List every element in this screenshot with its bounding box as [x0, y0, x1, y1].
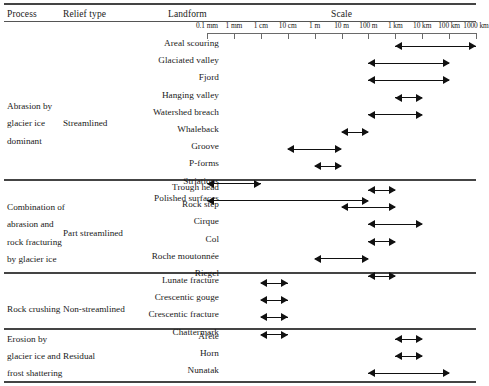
scale-tick-label: 100 km: [438, 21, 460, 30]
scale-tick-label: 1 km: [388, 21, 403, 30]
scale-range-arrow: [368, 59, 449, 68]
arrow-head-right-icon: [416, 220, 423, 228]
process-label-line: rock fracturing: [7, 234, 65, 251]
arrow-head-right-icon: [443, 369, 450, 377]
arrow-head-right-icon: [389, 238, 396, 246]
arrow-head-right-icon: [469, 42, 476, 50]
table-row: Fjord: [0, 72, 480, 89]
arrow-head-right-icon: [281, 279, 288, 287]
scale-range-arrow: [288, 145, 342, 154]
table-row: Hanging valley: [0, 90, 480, 107]
table-row: Arête: [0, 331, 480, 348]
process-label: Rock crushing: [7, 301, 60, 318]
landform-label: Areal scouring: [164, 38, 219, 48]
scale-tick-label: 0.1 mm: [196, 21, 218, 30]
table-row: Rock step: [0, 199, 480, 216]
relief-type-label: Streamlined: [63, 115, 107, 132]
process-label: Erosion byglacier ice andfrost shatterin…: [7, 331, 62, 383]
process-label-line: Abrasion by: [7, 98, 52, 115]
table-row: P-forms: [0, 158, 480, 175]
landform-label: Col: [206, 234, 219, 244]
arrow-head-right-icon: [362, 255, 369, 263]
scale-range-arrow: [368, 237, 395, 246]
scale-range-arrow: [261, 279, 288, 288]
scale-range-arrow: [315, 254, 369, 263]
table-top-rule: [4, 3, 476, 5]
arrow-head-right-icon: [416, 94, 423, 102]
process-label-line: glacier ice: [7, 115, 52, 132]
process-label: Combination ofabrasion androck fracturin…: [7, 199, 65, 268]
landform-label: P-forms: [189, 158, 219, 168]
landform-label: Crescentic fracture: [148, 309, 219, 319]
process-label-line: glacier ice and: [7, 348, 62, 365]
scale-tick-label: 1000 km: [463, 21, 488, 30]
arrow-shaft: [288, 149, 342, 150]
scale-range-arrow: [261, 313, 288, 322]
arrow-head-right-icon: [416, 352, 423, 360]
scale-range-arrow: [261, 296, 288, 305]
arrow-head-right-icon: [416, 335, 423, 343]
relief-type-label: Non-streamlined: [63, 301, 125, 318]
arrow-shaft: [342, 207, 396, 208]
landform-label: Horn: [200, 348, 219, 358]
table-row: Nunatak: [0, 365, 480, 382]
landform-label: Roche moutonnée: [152, 251, 219, 261]
landform-label: Nunatak: [188, 365, 219, 375]
scale-range-arrow: [368, 220, 422, 229]
scale-range-arrow: [395, 42, 476, 51]
arrow-head-right-icon: [389, 203, 396, 211]
scale-range-arrow: [368, 110, 422, 119]
process-label-line: Combination of: [7, 199, 65, 216]
arrow-shaft: [368, 224, 422, 225]
scale-range-arrow: [315, 162, 342, 171]
scale-tick-label: 10 cm: [279, 21, 297, 30]
arrow-head-right-icon: [443, 76, 450, 84]
scale-range-arrow: [368, 369, 449, 378]
arrow-head-right-icon: [443, 59, 450, 67]
table-row: Areal scouring: [0, 38, 480, 55]
column-header-scale: Scale: [331, 9, 352, 19]
scale-range-arrow: [395, 335, 422, 344]
process-label-line: abrasion and: [7, 216, 65, 233]
arrow-head-right-icon: [335, 162, 342, 170]
arrow-head-right-icon: [416, 111, 423, 119]
column-header-landform: Landform: [168, 9, 207, 19]
scale-range-arrow: [342, 128, 369, 137]
arrow-shaft: [368, 63, 449, 64]
table-row: Lunate fracture: [0, 275, 480, 292]
process-label: Abrasion byglacier icedominant: [7, 98, 52, 150]
scale-range-arrow: [395, 93, 422, 102]
table-row: Roche moutonnée: [0, 251, 480, 268]
process-label-line: by glacier ice: [7, 251, 65, 268]
landform-label: Groove: [191, 141, 219, 151]
column-header-process: Process: [7, 9, 37, 19]
scale-tick-label: 10 m: [334, 21, 349, 30]
landform-label: Watershed breach: [153, 107, 219, 117]
process-label-line: Erosion by: [7, 331, 62, 348]
arrow-shaft: [315, 258, 369, 259]
scale-range-arrow: [342, 203, 396, 212]
process-label-line: frost shattering: [7, 365, 62, 382]
arrow-shaft: [368, 114, 422, 115]
arrow-shaft: [368, 80, 449, 81]
scale-range-arrow: [395, 352, 422, 361]
landform-label: Whaleback: [177, 124, 219, 134]
table-row: Groove: [0, 141, 480, 158]
scale-tick-label: 100 m: [359, 21, 377, 30]
scale-tick-label: 1 m: [309, 21, 320, 30]
process-label-line: Rock crushing: [7, 301, 60, 318]
landform-label: Arête: [198, 331, 219, 341]
arrow-head-right-icon: [281, 313, 288, 321]
landform-label: Crescentic gouge: [155, 292, 219, 302]
arrow-head-right-icon: [389, 186, 396, 194]
landform-label: Hanging valley: [162, 90, 219, 100]
arrow-shaft: [395, 46, 476, 47]
landform-label: Rock step: [182, 199, 219, 209]
landform-label: Fjord: [199, 72, 219, 82]
scale-range-arrow: [368, 76, 449, 85]
landform-label: Lunate fracture: [162, 275, 219, 285]
landform-label: Glaciated valley: [158, 55, 219, 65]
scale-range-arrow: [368, 186, 395, 195]
relief-type-label: Part streamlined: [63, 225, 123, 242]
